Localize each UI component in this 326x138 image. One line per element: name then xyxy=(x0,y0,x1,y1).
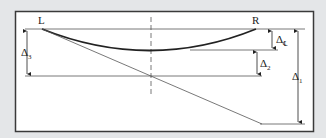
label-left-support: L xyxy=(38,14,45,26)
deflection-diagram: L R Δ3 Δ℄ Δ2 Δ1 xyxy=(0,0,326,138)
diagram-stage: L R Δ3 Δ℄ Δ2 Δ1 xyxy=(0,0,326,138)
label-right-support: R xyxy=(252,14,260,26)
